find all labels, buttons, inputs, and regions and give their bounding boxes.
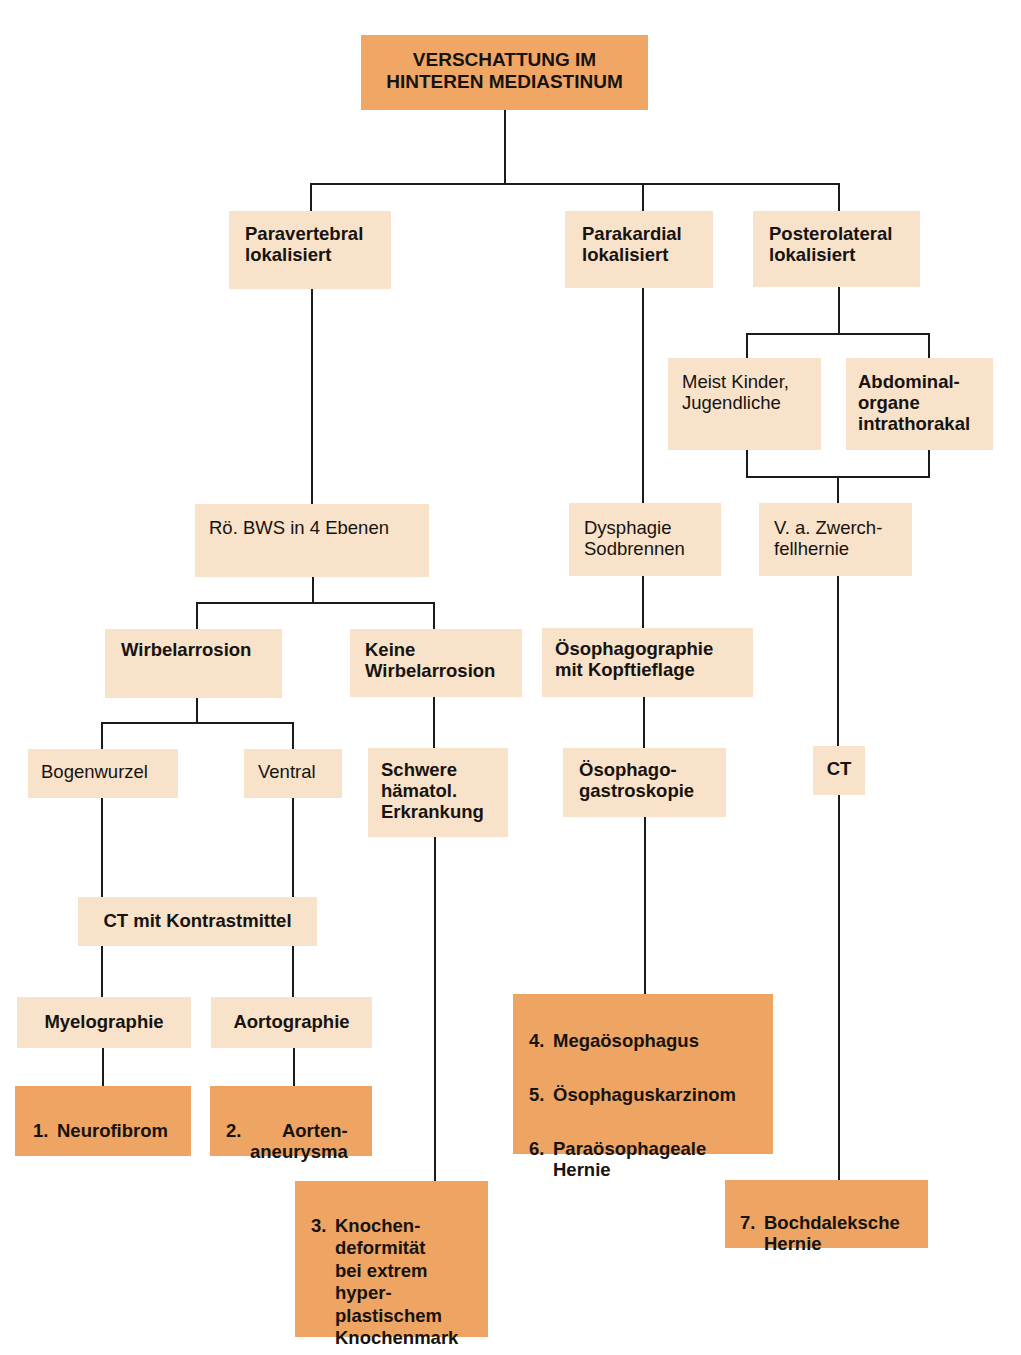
kinder-box: Meist Kinder, Jugendliche: [668, 358, 821, 450]
connector-parakardial-to-dysphagie: [642, 288, 644, 503]
connector-dysphagie-to-oesophagographie: [642, 576, 644, 628]
myelographie-box: Myelographie: [17, 997, 191, 1048]
abdominal-label: Abdominal- organe intrathorakal: [858, 371, 970, 434]
connector-wirbelarrosion-down: [196, 698, 198, 724]
connector-bogenwurzel-to-ctkm: [101, 798, 103, 897]
diagnosis-5: 5.Ösophaguskarzinom: [529, 1084, 736, 1105]
diagnosis-7: 7.Bochdaleksche Hernie: [740, 1191, 900, 1254]
connector-oesophagographie-to-skopie: [643, 697, 645, 748]
diagnosis-6-label: Paraösophageale Hernie: [553, 1138, 706, 1180]
diagnosis-6-number: 6.: [529, 1138, 553, 1159]
myelographie-label: Myelographie: [17, 1011, 191, 1032]
connector-paravertebral-to-roe: [311, 289, 313, 504]
keine-wirbelarrosion-label: Keine Wirbelarrosion: [365, 639, 495, 681]
diagnosis-1-number: 1.: [33, 1120, 57, 1141]
diagnosis-3-box: 3.Knochen- deformität bei extrem hyper- …: [295, 1181, 488, 1337]
diagnosis-7-number: 7.: [740, 1212, 764, 1233]
connector-keine-to-schwere: [433, 697, 435, 748]
diagnosis-4-number: 4.: [529, 1030, 553, 1051]
connector-kinder-down: [746, 450, 748, 478]
connector-posterolateral-down: [838, 287, 840, 334]
bogenwurzel-label: Bogenwurzel: [41, 761, 148, 782]
diagnosis-7-box: 7.Bochdaleksche Hernie: [725, 1180, 928, 1248]
diagnosis-456-list: 4.Megaösophagus 5.Ösophaguskarzinom 6.Pa…: [529, 1009, 736, 1213]
diagnosis-456-box: 4.Megaösophagus 5.Ösophaguskarzinom 6.Pa…: [513, 994, 773, 1154]
diagnosis-2-label: Aorten- aneurysma: [250, 1120, 348, 1162]
diagnosis-7-label: Bochdaleksche Hernie: [764, 1212, 900, 1254]
diagnosis-2-box: 2.Aorten- aneurysma: [210, 1086, 372, 1156]
connector-ctkm-to-myelo: [101, 946, 103, 997]
roe-bws-box: Rö. BWS in 4 Ebenen: [195, 504, 429, 577]
connector-root-down: [504, 110, 506, 184]
connector-aorto-to-2: [293, 1048, 295, 1086]
diagnosis-2: 2.Aorten- aneurysma: [226, 1099, 348, 1162]
connector-schwere-to-3: [434, 837, 436, 1181]
oesophagographie-box: Ösophagographie mit Kopftieflage: [542, 628, 753, 697]
posterolateral-label: Posterolateral lokalisiert: [769, 223, 892, 265]
oesophagoskopie-label: Ösophago- gastroskopie: [579, 759, 694, 801]
connector-to-parakardial: [642, 183, 644, 211]
schwere-box: Schwere hämatol. Erkrankung: [368, 748, 508, 837]
keine-wirbelarrosion-box: Keine Wirbelarrosion: [350, 629, 522, 697]
connector-ventral-to-ctkm: [292, 798, 294, 897]
connector-myelo-to-1: [102, 1048, 104, 1086]
zwerchfell-label: V. a. Zwerch- fellhernie: [774, 517, 882, 559]
dysphagie-label: Dysphagie Sodbrennen: [584, 517, 685, 559]
parakardial-box: Parakardial lokalisiert: [565, 211, 713, 288]
root-label: VERSCHATTUNG IM HINTEREN MEDIASTINUM: [361, 49, 648, 93]
diagnosis-3-label: Knochen- deformität bei extrem hyper- pl…: [335, 1215, 458, 1350]
connector-to-paravertebral: [310, 183, 312, 211]
connector-skopie-to-456: [644, 817, 646, 994]
connector-zwerchfell-to-ct: [837, 576, 839, 746]
connector-roe-down: [312, 577, 314, 604]
diagnosis-6: 6.Paraösophageale Hernie: [529, 1138, 736, 1180]
diagnosis-3: 3.Knochen- deformität bei extrem hyper- …: [311, 1192, 458, 1350]
abdominal-box: Abdominal- organe intrathorakal: [846, 358, 993, 450]
ct-kontrastmittel-label: CT mit Kontrastmittel: [78, 910, 317, 931]
wirbelarrosion-label: Wirbelarrosion: [121, 639, 251, 660]
connector-level1-horizontal: [310, 183, 840, 185]
diagnosis-4-label: Megaösophagus: [553, 1030, 699, 1051]
ventral-box: Ventral: [244, 749, 342, 798]
ct-label: CT: [813, 758, 865, 779]
wirbelarrosion-box: Wirbelarrosion: [105, 629, 282, 698]
bogenwurzel-box: Bogenwurzel: [28, 749, 178, 798]
ct-box: CT: [813, 746, 865, 795]
connector-to-keine: [433, 602, 435, 629]
ventral-label: Ventral: [258, 761, 316, 782]
paravertebral-box: Paravertebral lokalisiert: [229, 211, 391, 289]
diagnosis-1-label: Neurofibrom: [57, 1120, 168, 1141]
ct-kontrastmittel-box: CT mit Kontrastmittel: [78, 897, 317, 946]
connector-roe-split: [196, 602, 435, 604]
zwerchfell-box: V. a. Zwerch- fellhernie: [759, 503, 912, 576]
connector-to-bogenwurzel: [101, 722, 103, 749]
aortographie-label: Aortographie: [211, 1011, 372, 1032]
connector-to-ventral: [292, 722, 294, 749]
paravertebral-label: Paravertebral lokalisiert: [245, 223, 363, 265]
diagnosis-4: 4.Megaösophagus: [529, 1030, 736, 1051]
dysphagie-box: Dysphagie Sodbrennen: [569, 503, 721, 576]
roe-bws-label: Rö. BWS in 4 Ebenen: [209, 517, 389, 538]
oesophagographie-label: Ösophagographie mit Kopftieflage: [555, 638, 713, 680]
connector-to-zwerchfell: [837, 476, 839, 503]
diagnosis-5-number: 5.: [529, 1084, 553, 1105]
diagnosis-2-number: 2.: [226, 1120, 250, 1141]
connector-ct-to-7: [838, 795, 840, 1180]
diagnosis-1: 1.Neurofibrom: [33, 1099, 168, 1141]
connector-abdominal-down: [928, 450, 930, 478]
connector-ctkm-to-aorto: [292, 946, 294, 997]
kinder-label: Meist Kinder, Jugendliche: [682, 371, 789, 413]
connector-posterolateral-split: [746, 333, 930, 335]
root-box: VERSCHATTUNG IM HINTEREN MEDIASTINUM: [361, 35, 648, 110]
diagnosis-1-box: 1.Neurofibrom: [15, 1086, 191, 1156]
diagnosis-3-number: 3.: [311, 1215, 335, 1238]
parakardial-label: Parakardial lokalisiert: [582, 223, 682, 265]
connector-to-kinder: [746, 333, 748, 358]
connector-to-abdominal: [928, 333, 930, 358]
connector-wirbelarrosion-split: [101, 722, 294, 724]
connector-to-posterolateral: [838, 183, 840, 211]
posterolateral-box: Posterolateral lokalisiert: [753, 211, 920, 287]
schwere-label: Schwere hämatol. Erkrankung: [381, 759, 484, 822]
diagnosis-5-label: Ösophaguskarzinom: [553, 1084, 736, 1105]
aortographie-box: Aortographie: [211, 997, 372, 1048]
